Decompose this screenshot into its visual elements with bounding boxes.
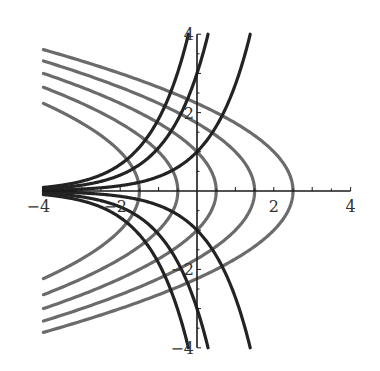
y-tick-label: 4: [184, 25, 194, 44]
y-tick-label: 2: [184, 104, 194, 123]
y-tick-label: −4: [170, 339, 194, 358]
x-tick-label: −4: [27, 197, 51, 216]
x-tick-label: 2: [269, 197, 279, 216]
y-tick-label: −2: [170, 260, 194, 279]
x-tick-label: −2: [103, 197, 127, 216]
x-tick-label: 4: [346, 197, 356, 216]
axes: [43, 34, 350, 348]
orthogonal-trajectories-plot: −4−22442−2−4: [0, 0, 380, 371]
